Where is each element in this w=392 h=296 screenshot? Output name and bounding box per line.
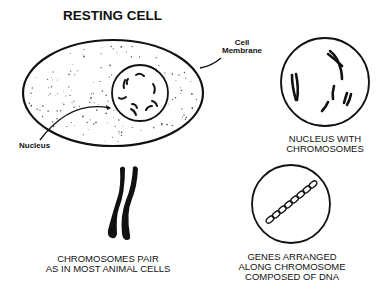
speckle [161, 123, 163, 125]
speckle [30, 105, 32, 107]
helix-turn [277, 205, 287, 215]
speckle [48, 95, 49, 96]
speckle [47, 79, 48, 80]
speckle [112, 137, 113, 138]
speckle [51, 86, 52, 87]
speckle [176, 80, 177, 81]
speckle [47, 110, 49, 112]
speckle [118, 131, 119, 132]
speckle [57, 93, 58, 94]
speckle [50, 93, 51, 94]
speckle [172, 99, 173, 100]
speckle [183, 115, 184, 116]
caption-line: COMPOSED OF DNA [238, 272, 346, 282]
speckle [102, 90, 104, 92]
nucleus-arrowhead [106, 105, 111, 110]
speckle [66, 126, 67, 127]
speckle [63, 91, 64, 92]
genes-arranged-caption: GENES ARRANGED ALONG CHROMOSOME COMPOSED… [238, 252, 346, 282]
speckle [105, 112, 107, 114]
speckle [63, 104, 64, 105]
speckle [172, 73, 174, 75]
speckle [181, 108, 182, 109]
speckle [82, 116, 84, 118]
nucleus-label: Nucleus [19, 142, 50, 150]
speckle [73, 106, 75, 108]
speckle [182, 117, 183, 118]
caption-line: AS IN MOST ANIMAL CELLS [28, 264, 188, 274]
speckle [70, 71, 71, 72]
speckle [71, 90, 72, 91]
helix-turn [265, 215, 275, 225]
speckle [131, 56, 132, 57]
speckle [56, 110, 57, 111]
speckle [68, 86, 69, 87]
speckle [74, 74, 75, 75]
speckle [98, 104, 99, 105]
speckle [153, 126, 154, 127]
helix-turn [283, 200, 293, 210]
dna-magnified-circle [252, 165, 330, 243]
speckle [107, 122, 108, 123]
speckle [29, 103, 30, 104]
chromosomes-pair-caption: CHROMOSOMES PAIR AS IN MOST ANIMAL CELLS [28, 254, 188, 274]
speckle [175, 97, 177, 99]
speckle [101, 53, 102, 54]
speckle [104, 141, 105, 142]
speckle [77, 70, 78, 71]
speckle [120, 46, 122, 48]
speckle [156, 57, 157, 58]
speckle [113, 110, 114, 111]
speckle [83, 134, 84, 135]
speckle [52, 121, 54, 123]
speckle [72, 64, 73, 65]
chromatin-strands [119, 74, 157, 115]
caption-line: CHROMOSOMES [280, 144, 370, 154]
speckle [76, 109, 77, 110]
speckle [109, 65, 111, 67]
condensed-chromosomes [292, 51, 351, 111]
speckle [185, 119, 186, 120]
speckle [95, 122, 97, 124]
speckle [93, 93, 94, 94]
speckle [168, 104, 169, 105]
speckle [115, 126, 116, 127]
speckle [83, 49, 84, 50]
speckle [82, 54, 83, 55]
speckle [184, 72, 186, 74]
speckle [111, 74, 112, 75]
speckle [117, 141, 118, 142]
speckle [113, 117, 114, 118]
speckle [121, 131, 123, 133]
speckle [42, 116, 43, 117]
cell-membrane-label: Cell Membrane [222, 39, 262, 56]
speckle [99, 81, 100, 82]
speckle [51, 77, 52, 78]
speckle [132, 127, 133, 128]
speckle [52, 71, 53, 72]
speckle [191, 81, 192, 82]
speckle [196, 99, 197, 100]
speckle [113, 48, 114, 49]
speckle [191, 107, 193, 109]
speckle [56, 118, 58, 120]
speckle [139, 56, 140, 57]
speckle [43, 105, 44, 106]
speckle [94, 102, 95, 103]
speckle [191, 93, 193, 95]
speckle [52, 79, 53, 80]
diagram-title: RESTING CELL [63, 9, 162, 23]
speckle [60, 110, 62, 112]
speckle [55, 95, 56, 96]
speckle [185, 117, 187, 119]
speckle [158, 65, 159, 66]
speckle [178, 74, 179, 75]
speckle [65, 95, 66, 96]
speckle [88, 129, 89, 130]
speckle [57, 80, 58, 81]
speckle [122, 126, 123, 127]
helix-turn [296, 190, 306, 200]
helix-turn [308, 180, 318, 190]
speckle [68, 74, 70, 76]
speckle [119, 133, 120, 134]
